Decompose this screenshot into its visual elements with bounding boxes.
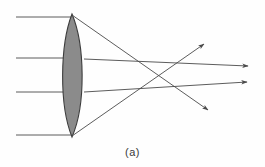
figure-caption: (a) [0,146,265,158]
refracted-ray-2 [84,59,248,66]
converging-lens [63,14,83,137]
refracted-ray-1 [72,15,208,110]
ray-diagram-canvas [0,0,265,167]
optics-figure: (a) [0,0,265,167]
refracted-ray-3 [84,82,247,92]
refracted-ray-4 [72,44,204,136]
refracted-ray-group [72,15,248,136]
